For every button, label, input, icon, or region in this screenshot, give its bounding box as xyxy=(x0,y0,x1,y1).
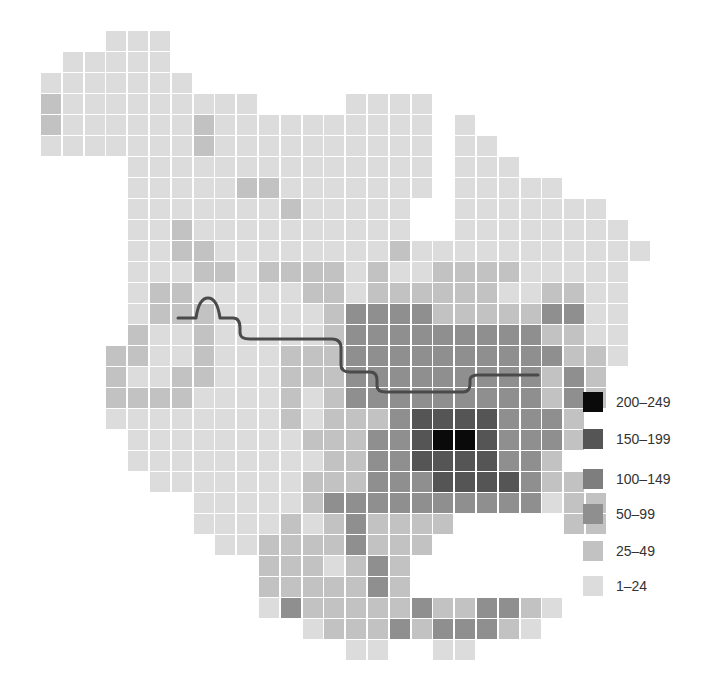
map-cell xyxy=(542,367,562,387)
map-cell xyxy=(172,451,192,471)
map-cell xyxy=(499,325,519,345)
map-cell xyxy=(324,619,344,639)
map-cell xyxy=(521,619,541,639)
map-cell xyxy=(259,136,279,156)
map-cell xyxy=(542,325,562,345)
map-cell xyxy=(259,430,279,450)
map-cell xyxy=(281,451,301,471)
map-cell xyxy=(303,199,323,219)
legend-label: 200–249 xyxy=(616,394,671,410)
legend-item-150-199: 150–199 xyxy=(583,429,701,451)
map-cell xyxy=(564,199,584,219)
map-cell xyxy=(499,199,519,219)
map-cell xyxy=(324,409,344,429)
map-cell xyxy=(324,283,344,303)
map-cell xyxy=(477,178,497,198)
map-cell xyxy=(390,430,410,450)
map-cell xyxy=(433,451,453,471)
map-cell xyxy=(41,136,61,156)
legend-swatch xyxy=(583,541,603,561)
map-cell xyxy=(259,262,279,282)
map-cell xyxy=(390,514,410,534)
map-cell xyxy=(390,493,410,513)
map-cell xyxy=(85,52,105,72)
map-cell xyxy=(521,409,541,429)
map-cell xyxy=(608,262,628,282)
map-cell xyxy=(390,598,410,618)
map-cell xyxy=(85,73,105,93)
map-cell xyxy=(281,283,301,303)
map-cell xyxy=(542,304,562,324)
legend-item-50-99: 50–99 xyxy=(583,504,701,526)
legend-item-200-249: 200–249 xyxy=(583,392,701,414)
map-cell xyxy=(521,325,541,345)
map-cell xyxy=(390,577,410,597)
map-cell xyxy=(346,346,366,366)
map-cell xyxy=(346,94,366,114)
map-cell xyxy=(259,220,279,240)
map-cell xyxy=(346,157,366,177)
map-cell xyxy=(368,136,388,156)
map-cell xyxy=(499,262,519,282)
map-cell xyxy=(346,136,366,156)
map-cell xyxy=(281,556,301,576)
map-cell xyxy=(477,472,497,492)
map-cell xyxy=(346,304,366,324)
map-cell xyxy=(215,388,235,408)
map-cell xyxy=(368,178,388,198)
map-cell xyxy=(390,619,410,639)
map-cell xyxy=(412,178,432,198)
map-cell xyxy=(303,535,323,555)
legend-swatch xyxy=(583,469,603,489)
map-cell xyxy=(346,535,366,555)
map-cell xyxy=(477,346,497,366)
map-cell xyxy=(542,430,562,450)
map-cell xyxy=(194,115,214,135)
map-cell xyxy=(564,346,584,366)
map-cell xyxy=(172,283,192,303)
map-cell xyxy=(303,514,323,534)
map-cell xyxy=(259,598,279,618)
map-cell xyxy=(412,472,432,492)
map-cell xyxy=(215,409,235,429)
map-cell xyxy=(499,388,519,408)
map-cell xyxy=(390,535,410,555)
map-cell xyxy=(324,157,344,177)
map-cell xyxy=(412,241,432,261)
map-cell xyxy=(150,31,170,51)
map-cell xyxy=(499,472,519,492)
map-cell xyxy=(368,640,388,660)
map-cell xyxy=(237,157,257,177)
map-cell xyxy=(412,451,432,471)
map-cell xyxy=(215,199,235,219)
map-cell xyxy=(412,157,432,177)
map-cell xyxy=(150,388,170,408)
map-cell xyxy=(477,388,497,408)
map-cell xyxy=(477,409,497,429)
map-cell xyxy=(237,304,257,324)
map-cell xyxy=(281,409,301,429)
map-cell xyxy=(499,598,519,618)
map-cell xyxy=(433,262,453,282)
map-cell xyxy=(172,115,192,135)
map-cell xyxy=(390,262,410,282)
map-cell xyxy=(194,220,214,240)
map-cell xyxy=(237,472,257,492)
map-cell xyxy=(128,241,148,261)
map-cell xyxy=(390,157,410,177)
map-cell xyxy=(521,493,541,513)
map-cell xyxy=(368,199,388,219)
map-cell xyxy=(150,304,170,324)
map-cell xyxy=(259,325,279,345)
map-cell xyxy=(455,472,475,492)
map-cell xyxy=(324,388,344,408)
map-cell xyxy=(630,241,650,261)
map-cell xyxy=(324,535,344,555)
map-cell xyxy=(281,178,301,198)
map-cell xyxy=(477,598,497,618)
map-cell xyxy=(499,367,519,387)
map-cell xyxy=(433,325,453,345)
legend-swatch xyxy=(583,429,603,449)
map-cell xyxy=(215,451,235,471)
map-cell xyxy=(346,430,366,450)
